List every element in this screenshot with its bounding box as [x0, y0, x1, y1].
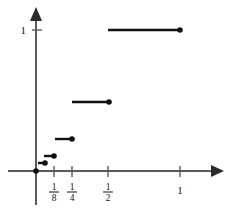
x-tick-label-one-quarter: 1 4 — [67, 182, 77, 203]
fraction-numerator: 1 — [106, 182, 111, 192]
step-endpoint-dot-step-at-1-8 — [51, 153, 57, 159]
plot-canvas: 1 1 8 1 4 1 2 1 — [0, 0, 232, 211]
fraction-denominator: 4 — [70, 193, 75, 203]
step-endpoint-dot-step-at-1-2 — [106, 99, 112, 105]
step-function-figure: 1 1 8 1 4 1 2 1 — [0, 0, 232, 211]
step-endpoint-dot-step-at-1-16 — [42, 160, 48, 166]
x-axis-arrowhead — [211, 165, 224, 177]
axes-group — [8, 7, 224, 205]
fraction-numerator: 1 — [70, 182, 75, 192]
step-endpoint-dot-step-at-1 — [177, 27, 183, 33]
fraction-denominator: 2 — [106, 193, 111, 203]
step-endpoint-dot-origin-point-0-0- — [33, 168, 39, 174]
x-tick-label-one-half: 1 2 — [103, 182, 113, 203]
x-tick-label-one-eighth: 1 8 — [49, 182, 59, 203]
x-tick-label-one: 1 — [177, 184, 183, 196]
y-axis-label-one: 1 — [21, 24, 27, 36]
y-axis-arrowhead — [30, 7, 42, 21]
fraction-denominator: 8 — [52, 193, 57, 203]
step-segments-group — [33, 27, 183, 174]
fraction-numerator: 1 — [52, 182, 57, 192]
step-endpoint-dot-step-at-1-4 — [69, 136, 75, 142]
